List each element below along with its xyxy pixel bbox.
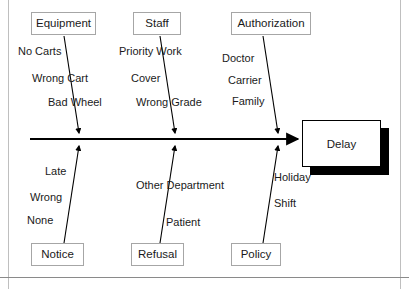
category-label-authorization: Authorization <box>237 18 304 30</box>
category-box-policy[interactable]: Policy <box>231 243 281 266</box>
cause-cover: Cover <box>131 73 160 84</box>
category-box-authorization[interactable]: Authorization <box>231 12 311 35</box>
category-box-notice[interactable]: Notice <box>31 243 84 266</box>
category-box-refusal[interactable]: Refusal <box>131 243 184 266</box>
cause-wrong-cart: Wrong Cart <box>32 73 88 84</box>
fishbone-diagram: Equipment Staff Authorization Notice Ref… <box>0 0 409 289</box>
category-label-staff: Staff <box>145 18 168 30</box>
effect-label: Delay <box>327 138 356 150</box>
category-label-notice: Notice <box>41 249 74 261</box>
effect-box-delay[interactable]: Delay <box>302 120 381 167</box>
category-label-policy: Policy <box>241 249 272 261</box>
cause-wrong: Wrong <box>30 192 62 203</box>
category-box-equipment[interactable]: Equipment <box>31 12 96 35</box>
cause-none: None <box>27 215 53 226</box>
branch-refusal <box>160 146 175 243</box>
category-label-refusal: Refusal <box>138 249 177 261</box>
cause-holiday: Holiday <box>274 172 311 183</box>
branch-equipment <box>64 36 79 133</box>
branch-authorization <box>263 36 278 133</box>
cause-other-department: Other Department <box>136 180 224 191</box>
cause-wrong-grade: Wrong Grade <box>136 97 202 108</box>
cause-priority-work: Priority Work <box>119 46 182 57</box>
cause-no-carts: No Carts <box>18 46 61 57</box>
cause-patient: Patient <box>166 217 200 228</box>
cause-bad-wheel: Bad Wheel <box>48 97 102 108</box>
branch-notice <box>64 146 79 243</box>
cause-doctor: Doctor <box>222 53 254 64</box>
branch-policy <box>263 146 278 243</box>
cause-carrier: Carrier <box>228 75 262 86</box>
category-box-staff[interactable]: Staff <box>133 12 181 35</box>
category-label-equipment: Equipment <box>36 18 91 30</box>
cause-family: Family <box>232 96 264 107</box>
cause-late: Late <box>45 166 66 177</box>
cause-shift: Shift <box>274 198 296 209</box>
